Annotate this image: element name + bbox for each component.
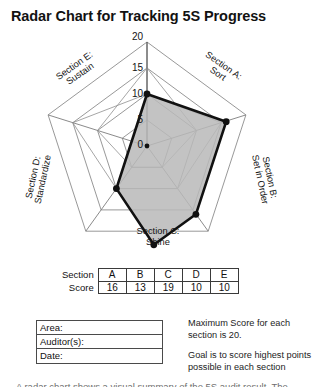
tick-label-15: 15 bbox=[132, 62, 144, 73]
score-cell-c: 19 bbox=[154, 281, 182, 294]
tick-label-0: 0 bbox=[137, 139, 143, 150]
note-goal: Goal is to score highest points possible… bbox=[188, 350, 314, 373]
footer-caption-cutoff: A radar chart shows a visual summary of … bbox=[16, 381, 306, 387]
score-cell-a: 16 bbox=[98, 281, 126, 294]
note-max-score: Maximum Score for each section is 20. bbox=[188, 318, 314, 341]
label-section-c: Section C: Shine bbox=[137, 226, 180, 247]
score-table-grid: A B C D E 16 13 19 10 10 bbox=[98, 268, 239, 294]
label-section-c-line2: Shine bbox=[146, 237, 170, 247]
section-cell-c: C bbox=[154, 269, 182, 282]
section-cell-e: E bbox=[210, 269, 238, 282]
label-section-e: Section E: Sustain bbox=[54, 49, 100, 90]
form-field-area[interactable]: Area: bbox=[37, 321, 162, 335]
form-field-date[interactable]: Date: bbox=[37, 349, 162, 363]
audit-header-form: Area: Auditor(s): Date: bbox=[36, 320, 163, 364]
tick-label-20: 20 bbox=[132, 31, 144, 42]
radar-center-hub bbox=[145, 144, 150, 149]
label-section-c-line1: Section C: bbox=[137, 226, 180, 236]
row-label-section: Section bbox=[62, 268, 94, 281]
label-section-d: Section D: Standardize bbox=[23, 152, 53, 205]
data-point-section-e bbox=[144, 91, 151, 98]
score-table-row-labels: Section Score bbox=[62, 268, 98, 294]
radar-data-polygon bbox=[116, 94, 226, 245]
score-cell-d: 10 bbox=[182, 281, 210, 294]
radar-chart-svg: 20 15 10 5 0 Section A: Sort Section B: … bbox=[0, 26, 318, 266]
notes-block: Maximum Score for each section is 20. Go… bbox=[188, 318, 314, 382]
row-label-score: Score bbox=[62, 281, 94, 294]
label-section-a: Section A: Sort bbox=[198, 49, 244, 89]
section-cell-d: D bbox=[182, 269, 210, 282]
score-cell-b: 13 bbox=[126, 281, 154, 294]
data-point-section-b bbox=[193, 211, 200, 218]
tick-label-10: 10 bbox=[132, 88, 144, 99]
table-row-sections: A B C D E bbox=[98, 269, 238, 282]
data-point-section-a bbox=[223, 118, 230, 125]
score-table: Section Score A B C D E 16 13 19 10 10 bbox=[62, 268, 239, 294]
section-cell-b: B bbox=[126, 269, 154, 282]
radar-chart: 20 15 10 5 0 Section A: Sort Section B: … bbox=[0, 26, 318, 266]
page-title: Radar Chart for Tracking 5S Progress bbox=[11, 8, 266, 24]
table-row-scores: 16 13 19 10 10 bbox=[98, 281, 238, 294]
tick-label-5: 5 bbox=[137, 114, 143, 125]
form-field-auditors[interactable]: Auditor(s): bbox=[37, 335, 162, 349]
section-cell-a: A bbox=[98, 269, 126, 282]
data-point-section-d bbox=[113, 185, 120, 192]
label-section-b: Section B: Set in Order bbox=[250, 152, 280, 205]
score-cell-e: 10 bbox=[210, 281, 238, 294]
